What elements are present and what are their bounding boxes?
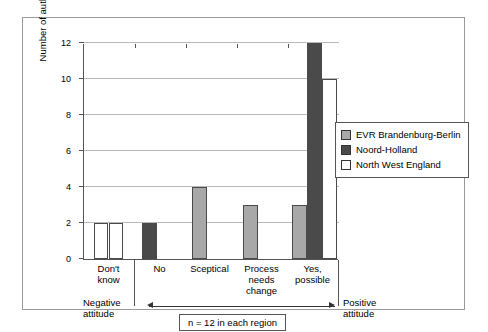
x-category-label-yes-possible: Yes, possible xyxy=(287,263,338,285)
x-category-label-sceptical: Sceptical xyxy=(183,263,236,274)
y-tick-8: 8 xyxy=(79,114,84,115)
negative-attitude-label: Negative attitude xyxy=(83,297,145,319)
y-tick-12: 12 xyxy=(79,42,84,43)
bar-yes-possible-noord-holland xyxy=(307,43,322,259)
y-tick-4: 4 xyxy=(79,186,84,187)
bar-dont-know-white-2 xyxy=(109,223,123,259)
legend-label-noord-holland: Noord-Holland xyxy=(356,144,417,155)
attitude-arrow-head-left xyxy=(147,302,153,308)
legend-label-north-west-england: North West England xyxy=(356,159,441,170)
bar-process-needs-change-evr-brandenburg-berlin xyxy=(243,205,258,259)
y-tick-0: 0 xyxy=(79,258,84,259)
x-tick-3 xyxy=(237,44,238,48)
legend-item-noord-holland: Noord-Holland xyxy=(341,142,461,157)
bar-no-noord-holland xyxy=(142,223,157,259)
gridline-8 xyxy=(84,114,339,115)
gridline-10 xyxy=(84,78,339,79)
gridline-4 xyxy=(84,186,339,187)
y-tick-6: 6 xyxy=(79,150,84,151)
chart-legend: EVR Brandenburg-Berlin Noord-Holland Nor… xyxy=(335,122,469,178)
x-category-label-no: No xyxy=(134,263,185,274)
y-tick-label-0: 0 xyxy=(66,255,71,264)
legend-swatch-icon-noord-holland xyxy=(341,145,351,155)
y-tick-label-2: 2 xyxy=(66,219,71,228)
x-tick-4 xyxy=(288,44,289,48)
bar-sceptical-evr-brandenburg-berlin xyxy=(192,187,207,259)
y-tick-label-10: 10 xyxy=(61,75,71,84)
y-tick-label-4: 4 xyxy=(66,183,71,192)
y-axis-title: Number of authorities xyxy=(37,0,48,76)
attitude-axis-arrow-line xyxy=(149,306,335,307)
x-tick-1 xyxy=(135,44,136,48)
y-tick-2: 2 xyxy=(79,222,84,223)
legend-swatch-icon-evr-brandenburg-berlin xyxy=(341,130,351,140)
legend-label-evr-brandenburg-berlin: EVR Brandenburg-Berlin xyxy=(356,129,461,140)
y-tick-10: 10 xyxy=(79,78,84,79)
legend-item-north-west-england: North West England xyxy=(341,157,461,172)
y-tick-label-6: 6 xyxy=(66,147,71,156)
y-tick-label-8: 8 xyxy=(66,111,71,120)
gridline-12 xyxy=(84,42,339,43)
x-tick-2 xyxy=(186,44,187,48)
category-separator-right xyxy=(338,260,339,306)
x-category-label-process-needs-change: Process needs change xyxy=(236,263,287,296)
plot-area: 12 10 8 6 4 2 0 xyxy=(83,44,338,260)
legend-swatch-icon-north-west-england xyxy=(341,160,351,170)
figure-frame: Number of authorities 12 10 8 6 4 2 0 xyxy=(22,17,465,310)
sample-size-note: n = 12 in each region xyxy=(179,314,286,331)
bar-yes-possible-evr-brandenburg-berlin xyxy=(292,205,307,259)
bar-dont-know-north-west-england xyxy=(94,223,108,259)
legend-item-evr-brandenburg-berlin: EVR Brandenburg-Berlin xyxy=(341,127,461,142)
x-category-label-dont-know: Don't know xyxy=(83,263,134,285)
gridline-6 xyxy=(84,150,339,151)
positive-attitude-label: Positive attitude xyxy=(343,297,413,319)
attitude-arrow-head-right xyxy=(329,302,335,308)
y-tick-label-12: 12 xyxy=(61,39,71,48)
